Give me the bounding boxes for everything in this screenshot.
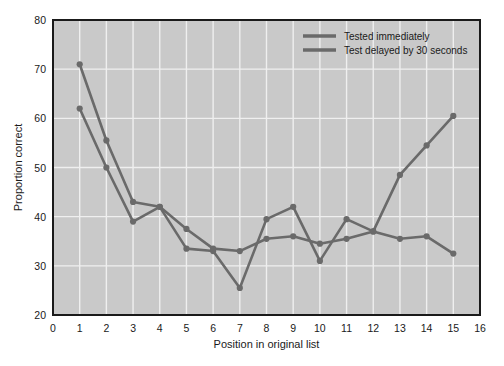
x-tick-label: 13	[394, 322, 406, 334]
data-point	[424, 233, 430, 239]
x-tick-label: 15	[447, 322, 459, 334]
x-tick-label: 2	[103, 322, 109, 334]
data-point	[130, 218, 136, 224]
data-point	[290, 233, 296, 239]
x-tick-label: 12	[367, 322, 379, 334]
data-point	[237, 285, 243, 291]
data-point	[450, 250, 456, 256]
y-tick-label: 60	[34, 112, 46, 124]
y-tick-label: 40	[34, 211, 46, 223]
data-point	[317, 241, 323, 247]
data-point	[103, 164, 109, 170]
x-tick-label: 6	[210, 322, 216, 334]
data-point	[183, 226, 189, 232]
data-point	[237, 248, 243, 254]
x-tick-label: 5	[184, 322, 190, 334]
data-point	[130, 199, 136, 205]
data-point	[317, 258, 323, 264]
x-tick-label: 11	[341, 322, 352, 334]
data-point	[397, 236, 403, 242]
x-tick-label: 4	[157, 322, 163, 334]
y-axis-title: Proportion correct	[12, 124, 24, 211]
data-point	[103, 137, 109, 143]
x-tick-label: 8	[264, 322, 270, 334]
data-point	[263, 216, 269, 222]
x-axis-title: Position in original list	[214, 338, 320, 350]
data-point	[343, 216, 349, 222]
y-tick-label: 80	[34, 14, 46, 26]
data-point	[370, 228, 376, 234]
data-point	[210, 248, 216, 254]
chart-canvas: 20304050607080012345678910111213141516 T…	[0, 0, 504, 366]
data-point	[77, 61, 83, 67]
data-point	[263, 236, 269, 242]
data-point	[450, 113, 456, 119]
data-point	[424, 142, 430, 148]
y-tick-label: 20	[34, 309, 46, 321]
x-tick-label: 3	[130, 322, 136, 334]
data-point	[290, 204, 296, 210]
data-point	[183, 246, 189, 252]
y-tick-label: 30	[34, 260, 46, 272]
serial-position-chart: 20304050607080012345678910111213141516 T…	[0, 0, 504, 366]
data-point	[77, 105, 83, 111]
y-tick-label: 50	[34, 162, 46, 174]
x-tick-label: 9	[290, 322, 296, 334]
x-tick-label: 10	[314, 322, 326, 334]
data-point	[397, 172, 403, 178]
x-tick-label: 16	[474, 322, 486, 334]
legend-label: Test delayed by 30 seconds	[344, 45, 467, 56]
y-tick-label: 70	[34, 63, 46, 75]
x-tick-label: 7	[237, 322, 243, 334]
data-point	[157, 204, 163, 210]
data-point	[343, 236, 349, 242]
x-tick-label: 0	[50, 322, 56, 334]
x-tick-label: 14	[421, 322, 433, 334]
legend-label: Tested immediately	[344, 31, 430, 42]
x-tick-label: 1	[77, 322, 83, 334]
